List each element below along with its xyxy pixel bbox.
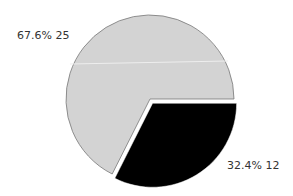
slice-label-black: 32.4% 12 xyxy=(227,159,279,172)
slice-label-gray: 67.6% 25 xyxy=(17,29,69,42)
